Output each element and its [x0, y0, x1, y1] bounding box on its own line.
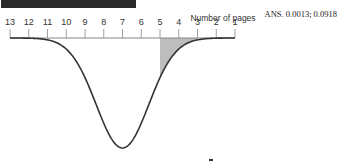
shaded-area — [160, 38, 198, 78]
rotated-figure: ANS. 0.0013; 0.0918 Number of pages 1234… — [0, 0, 341, 161]
x-tick-label: 12 — [24, 17, 34, 27]
normal-curve — [10, 38, 235, 148]
x-tick-label: 3 — [195, 17, 200, 27]
x-axis-title: Number of pages — [190, 13, 255, 23]
small-mark — [209, 159, 213, 161]
x-tick-label: 10 — [61, 17, 71, 27]
x-tick-label: 7 — [120, 17, 125, 27]
x-tick-label: 9 — [82, 17, 87, 27]
x-tick-label: 13 — [5, 17, 15, 27]
x-tick-label: 5 — [157, 17, 162, 27]
x-tick-label: 6 — [139, 17, 144, 27]
x-tick-label: 4 — [176, 17, 181, 27]
x-tick-label: 2 — [214, 17, 219, 27]
x-tick-label: 1 — [232, 17, 237, 27]
x-tick-label: 11 — [43, 17, 52, 27]
x-tick-label: 8 — [101, 17, 106, 27]
answer-annotation: ANS. 0.0013; 0.0918 — [265, 9, 338, 19]
normal-curve-chart: ANS. 0.0013; 0.0918 Number of pages 1234… — [0, 0, 341, 161]
top-dark-bar — [1, 0, 136, 8]
